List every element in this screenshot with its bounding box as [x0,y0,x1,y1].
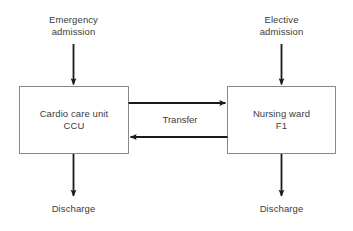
patient-flow-diagram: Emergency admission Elective admission C… [0,0,353,231]
output-label-discharge-ccu: Discharge [23,203,124,215]
output-label-discharge-nursing-ward: Discharge [231,203,332,215]
node-nursing-ward[interactable] [228,87,335,153]
edge-label-transfer: Transfer [150,114,210,126]
node-ccu[interactable] [20,87,128,153]
input-label-elective-admission: Elective admission [231,14,332,38]
input-label-emergency-admission: Emergency admission [23,14,124,38]
